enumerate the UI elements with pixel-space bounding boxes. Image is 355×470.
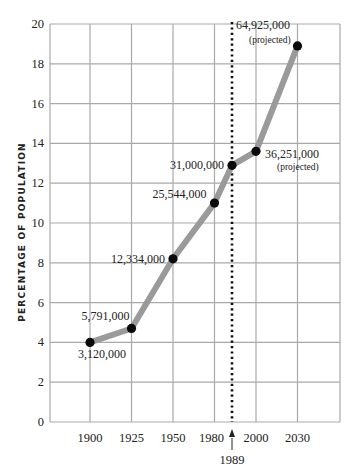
x-tick-label: 2030 — [285, 431, 310, 445]
data-point-label: 25,544,000 — [153, 187, 207, 201]
y-tick-label: 0 — [38, 415, 44, 429]
data-point-label: 5,791,000 — [82, 309, 130, 323]
x-tick-label: 1925 — [119, 431, 144, 445]
y-tick-label: 12 — [32, 176, 45, 190]
x-tick-label: 1900 — [78, 431, 103, 445]
data-point-marker — [293, 41, 302, 50]
projected-note: (projected) — [277, 162, 319, 173]
data-point-marker — [227, 161, 236, 170]
chart-grid — [50, 24, 340, 422]
x-axis-ticks: 190019251950198020002030 — [78, 431, 311, 445]
y-tick-label: 6 — [38, 296, 44, 310]
annotation-1989-label: 1989 — [220, 453, 245, 467]
year-1989-marker: 1989 — [220, 22, 245, 467]
data-point-label: 3,120,000 — [78, 347, 126, 361]
data-point-label: 31,000,000 — [170, 158, 224, 172]
arrow-up-icon — [229, 429, 235, 437]
population-line-chart: 02468101214161820 1900192519501980200020… — [0, 0, 355, 470]
y-tick-label: 10 — [32, 216, 45, 230]
data-point-label: 36,251,000 — [265, 147, 319, 161]
data-point-label: 64,925,000 — [236, 18, 290, 32]
x-tick-label: 1950 — [161, 431, 186, 445]
data-point-labels: 3,120,0005,791,00012,334,00025,544,00031… — [78, 18, 319, 362]
data-point-marker — [251, 147, 260, 156]
y-tick-label: 14 — [32, 136, 45, 150]
projected-note: (projected) — [249, 35, 291, 46]
y-tick-label: 20 — [32, 17, 45, 31]
x-tick-label: 2000 — [244, 431, 269, 445]
y-tick-label: 8 — [38, 256, 44, 270]
y-tick-label: 4 — [38, 335, 45, 349]
x-tick-label: 1980 — [199, 431, 224, 445]
y-axis-label: PERCENTAGE OF POPULATION — [17, 142, 27, 322]
data-point-label: 12,334,000 — [111, 252, 165, 266]
y-tick-label: 2 — [38, 375, 44, 389]
data-point-marker — [127, 324, 136, 333]
data-point-marker — [85, 338, 94, 347]
y-tick-label: 16 — [32, 97, 45, 111]
y-tick-label: 18 — [32, 57, 45, 71]
y-axis-ticks: 02468101214161820 — [32, 17, 45, 429]
data-point-marker — [168, 254, 177, 263]
data-point-marker — [210, 199, 219, 208]
